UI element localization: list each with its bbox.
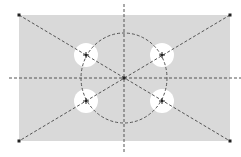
hole-center-point <box>161 54 163 56</box>
hole-center-point <box>85 100 87 102</box>
hole-center-point <box>161 100 163 102</box>
corner-point <box>229 14 232 17</box>
center-point <box>123 77 126 80</box>
corner-point <box>18 14 21 17</box>
hole-center-point <box>85 54 87 56</box>
corner-point <box>18 140 21 143</box>
corner-point <box>229 140 232 143</box>
plate-diagram <box>0 0 241 157</box>
